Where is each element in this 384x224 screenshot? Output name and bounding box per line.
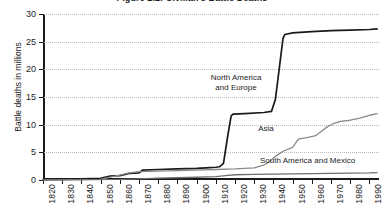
x-tick-label: 1830 <box>66 184 76 204</box>
x-tick-label: 1950 <box>297 184 307 204</box>
x-tick-mark <box>235 180 236 184</box>
y-tick-label: 25 <box>26 37 36 47</box>
x-tick-mark <box>312 180 313 184</box>
x-tick-label: 1880 <box>162 184 172 204</box>
y-tick-label: 30 <box>26 9 36 19</box>
annotation-north-america-and-europe: North America and Europe <box>193 73 279 92</box>
x-tick-mark <box>273 180 274 184</box>
x-tick-label: 1970 <box>335 184 345 204</box>
y-tick-label: 15 <box>26 92 36 102</box>
series-line <box>43 114 377 180</box>
x-tick-mark <box>197 180 198 184</box>
x-tick-label: 1980 <box>354 184 364 204</box>
x-tick-mark <box>120 180 121 184</box>
x-tick-label: 1920 <box>239 184 249 204</box>
y-axis-title: Battle deaths in millions <box>13 17 23 157</box>
x-tick-mark <box>158 180 159 184</box>
x-tick-label: 1940 <box>277 184 287 204</box>
x-tick-label: 1820 <box>47 184 57 204</box>
x-tick-mark <box>254 180 255 184</box>
y-tick-label: 0 <box>31 175 36 185</box>
x-tick-label: 1840 <box>85 184 95 204</box>
chart-figure: Figure 2.2: Civilian's Battle Deaths Bat… <box>0 0 384 224</box>
x-tick-label: 1890 <box>181 184 191 204</box>
annotation-asia: Asia <box>251 124 281 134</box>
annotation-line-2: and Europe <box>215 83 256 92</box>
y-tick-label: 10 <box>26 120 36 130</box>
x-tick-mark <box>139 180 140 184</box>
x-tick-label: 1860 <box>124 184 134 204</box>
x-tick-mark <box>216 180 217 184</box>
annotation-south-america-and-mexico: South America and Mexico <box>260 156 380 166</box>
x-tick-mark <box>62 180 63 184</box>
y-tick-label: 20 <box>26 64 36 74</box>
x-tick-mark <box>81 180 82 184</box>
x-tick-mark <box>293 180 294 184</box>
x-tick-mark <box>331 180 332 184</box>
x-tick-label: 1990 <box>373 184 383 204</box>
x-tick-mark <box>177 180 178 184</box>
x-tick-label: 1930 <box>258 184 268 204</box>
plot-area: 051015202530 182018301840185018601870188… <box>43 14 379 180</box>
x-tick-label: 1900 <box>201 184 211 204</box>
x-tick-label: 1850 <box>105 184 115 204</box>
x-tick-label: 1960 <box>316 184 326 204</box>
x-tick-mark <box>350 180 351 184</box>
x-tick-mark <box>369 180 370 184</box>
annotation-line-1: North America <box>211 73 262 82</box>
x-tick-mark <box>101 180 102 184</box>
x-tick-label: 1870 <box>143 184 153 204</box>
chart-title: Figure 2.2: Civilian's Battle Deaths <box>0 0 384 3</box>
y-tick-label: 5 <box>31 147 36 157</box>
x-tick-label: 1910 <box>220 184 230 204</box>
x-tick-mark <box>43 180 44 184</box>
